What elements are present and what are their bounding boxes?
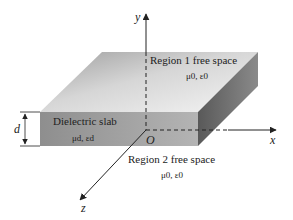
slab-params: μd, εd	[72, 133, 95, 143]
y-axis-label: y	[134, 10, 141, 24]
x-axis-label: x	[269, 133, 276, 147]
slab-title: Dielectric slab	[53, 115, 117, 127]
region1-title: Region 1 free space	[150, 54, 237, 66]
dielectric-slab-diagram: y x z O Region 1 free space μ0, ε0 Diele…	[0, 0, 293, 220]
thickness-label: d	[14, 122, 21, 136]
z-axis-label: z	[80, 201, 86, 215]
region1-params: μ0, ε0	[186, 71, 209, 81]
region2-params: μ0, ε0	[161, 170, 184, 180]
origin-label: O	[146, 133, 155, 147]
region2-title: Region 2 free space	[128, 153, 215, 165]
